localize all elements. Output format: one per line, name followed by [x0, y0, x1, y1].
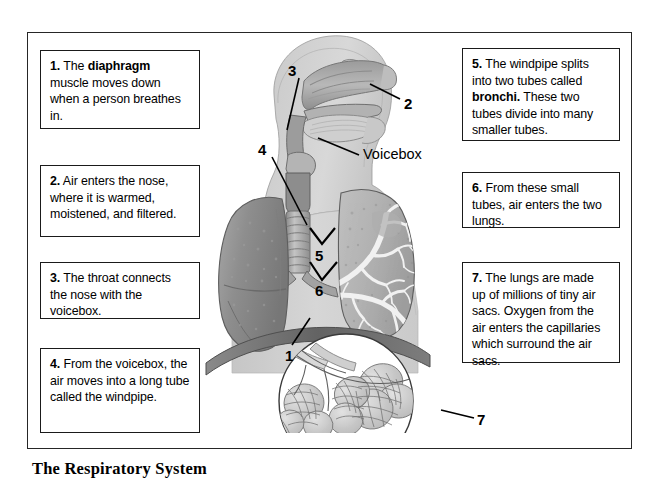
callout-1-label: 1	[285, 347, 293, 364]
step-5-text-before: The windpipe splits into two tubes calle…	[472, 57, 589, 88]
step-2-number: 2.	[50, 174, 60, 188]
page-title: The Respiratory System	[32, 459, 207, 479]
step-box-3: 3. The throat connects the nose with the…	[40, 262, 200, 319]
lung-left	[219, 197, 289, 351]
step-3-text-before: The throat connects the nose with the vo…	[50, 271, 171, 318]
callout-7-label: 7	[477, 411, 485, 428]
respiratory-system-illustration	[186, 33, 466, 433]
trachea-windpipe	[286, 173, 310, 273]
callout-voicebox-label: Voicebox	[363, 146, 422, 162]
step-box-2: 2. Air enters the nose, where it is warm…	[40, 165, 200, 237]
step-5-bold-term: bronchi.	[472, 90, 520, 104]
step-4-number: 4.	[50, 357, 60, 371]
step-6-text-before: From these small tubes, air enters the t…	[472, 181, 602, 228]
step-4-text-before: From the voicebox, the air moves into a …	[50, 357, 189, 404]
step-3-number: 3.	[50, 271, 60, 285]
step-7-text-before: The lungs are made up of millions of tin…	[472, 271, 600, 368]
step-1-bold-term: diaphragm	[88, 59, 150, 73]
step-5-number: 5.	[472, 57, 482, 71]
step-6-number: 6.	[472, 181, 482, 195]
step-box-7: 7. The lungs are made up of millions of …	[462, 262, 620, 363]
step-box-6: 6. From these small tubes, air enters th…	[462, 172, 620, 228]
step-box-5: 5. The windpipe splits into two tubes ca…	[462, 48, 620, 141]
callout-3-label: 3	[288, 62, 296, 79]
callout-4-label: 4	[258, 141, 266, 158]
callout-5-label: 5	[315, 247, 323, 264]
step-1-text-after: muscle moves down when a person breathes…	[50, 76, 181, 123]
step-1-number: 1.	[50, 59, 60, 73]
step-7-number: 7.	[472, 271, 482, 285]
callout-2-label: 2	[404, 95, 412, 112]
step-box-1: 1. The diaphragm muscle moves down when …	[40, 50, 200, 129]
step-2-text-before: Air enters the nose, where it is warmed,…	[50, 174, 176, 221]
callout-6-label: 6	[315, 282, 323, 299]
step-box-4: 4. From the voicebox, the air moves into…	[40, 348, 200, 433]
step-1-text-before: The	[63, 59, 87, 73]
